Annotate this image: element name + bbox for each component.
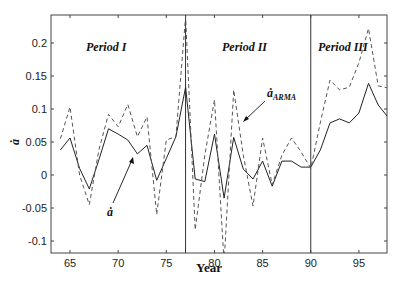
y-axis-label: ȧ <box>8 139 22 145</box>
annotation-a-label: ȧ <box>107 205 113 219</box>
x-tick-label: 75 <box>160 257 172 269</box>
period-i-label: Period I <box>86 40 128 54</box>
line-chart: 65707580859095-0.1-0.0500.050.10.150.2 P… <box>0 0 401 290</box>
x-tick-label: 95 <box>353 257 365 269</box>
annotation-arma-arrow <box>245 101 265 120</box>
x-tick-label: 85 <box>256 257 268 269</box>
y-tick-label: -0.05 <box>22 202 47 214</box>
x-tick-label: 70 <box>112 257 124 269</box>
x-tick-label: 65 <box>64 257 76 269</box>
x-axis-label: Year <box>196 260 222 275</box>
annotation-arma-label: ȧARMA <box>267 86 297 102</box>
y-tick-label: -0.1 <box>28 235 47 247</box>
annotation-a-arrow <box>113 160 132 203</box>
annotation-a: ȧ <box>107 157 134 219</box>
y-tick-label: 0.05 <box>26 136 47 148</box>
annotation-arma: ȧARMA <box>243 86 297 122</box>
series-a-line <box>60 83 387 198</box>
period-iii-label: Period III <box>318 40 369 54</box>
y-tick-label: 0.1 <box>32 103 47 115</box>
arrowhead-icon <box>129 157 134 164</box>
period-ii-label: Period II <box>222 40 268 54</box>
y-tick-label: 0.2 <box>32 37 47 49</box>
y-tick-label: 0.15 <box>26 70 47 82</box>
x-tick-label: 90 <box>305 257 317 269</box>
y-tick-label: 0 <box>41 169 47 181</box>
